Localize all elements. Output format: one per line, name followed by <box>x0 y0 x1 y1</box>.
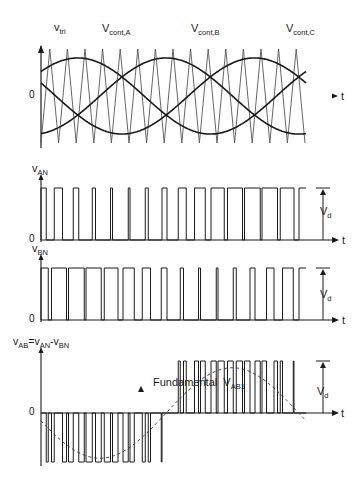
vcont-c-label: Vcont,C <box>286 23 315 37</box>
top-panel-carrier-and-controls <box>41 46 338 148</box>
top-zero-label: 0 <box>29 90 35 100</box>
vbn-panel <box>39 254 340 323</box>
vbn-vd-label: Vd <box>320 289 332 303</box>
van-t-label: t <box>342 235 345 246</box>
vab-t-arrow-icon <box>332 410 339 416</box>
fundamental-pointer-arrow-icon <box>138 386 144 392</box>
vab-zero-label: 0 <box>29 407 35 417</box>
vab-t-label: t <box>341 408 344 419</box>
van-panel <box>39 174 340 243</box>
van-vd-label: Vd <box>320 206 332 220</box>
vbn-label: vBN <box>32 243 48 257</box>
t-arrow-icon <box>332 94 338 99</box>
vbn-t-arrow-icon <box>332 317 339 323</box>
vbn-waveform <box>41 268 306 320</box>
top-t-label: t <box>341 91 344 102</box>
vcont-b-label: Vcont,B <box>191 23 220 37</box>
vbn-t-label: t <box>342 315 345 326</box>
vab-vd-label: Vd <box>317 386 329 400</box>
carrier-triangle-wave <box>41 49 305 143</box>
vab-label: vAB=vAN-vBN <box>13 336 69 350</box>
van-t-arrow-icon <box>332 237 339 243</box>
vbn-vd-arrow-icon <box>320 269 326 275</box>
van-label: vAN <box>32 163 48 177</box>
van-vd-arrow-icon <box>320 189 326 195</box>
vtri-label: vtri <box>54 22 66 36</box>
vab-vd-arrow-icon <box>320 362 326 368</box>
van-waveform <box>41 188 306 240</box>
waveform-diagram <box>0 0 364 484</box>
vcont-a-label: Vcont,A <box>102 23 131 37</box>
vbn-zero-label: 0 <box>29 314 35 324</box>
vab-panel <box>39 347 340 466</box>
fundamental-label: Fundamental VAB1 <box>153 377 245 391</box>
